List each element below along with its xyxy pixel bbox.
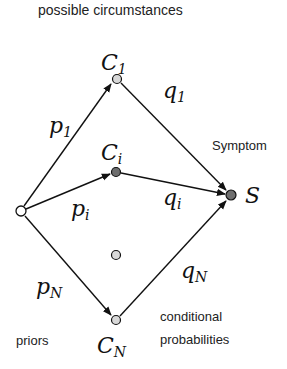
conditional-label-line2: probabilities	[160, 332, 230, 347]
source-node	[16, 206, 26, 216]
label-qi: qi	[163, 185, 182, 212]
edge-pi	[26, 174, 110, 209]
node-s	[226, 190, 236, 200]
title-label: possible circumstances	[38, 2, 183, 18]
edge-qn	[120, 201, 226, 316]
priors-label: priors	[16, 333, 49, 348]
label-p1: p1	[49, 113, 72, 140]
node-ci	[112, 168, 121, 177]
label-s: S	[245, 183, 260, 208]
label-q1: q1	[163, 78, 186, 105]
node-cn	[112, 316, 121, 325]
label-ci: Ci	[101, 140, 122, 167]
label-pn: pN	[36, 274, 63, 301]
label-pi: pi	[71, 196, 90, 223]
edge-p1	[24, 84, 111, 206]
bayes-diagram: possible circumstances C1 Ci CN S p1 pi …	[0, 0, 287, 369]
symptom-label: Symptom	[212, 138, 267, 153]
label-c1: C1	[101, 50, 127, 77]
conditional-label-line1: conditional	[160, 309, 222, 324]
diagram-canvas: possible circumstances C1 Ci CN S p1 pi …	[0, 0, 287, 369]
node-middle	[112, 251, 121, 260]
label-cn: CN	[97, 333, 127, 360]
label-qn: qN	[181, 258, 208, 285]
edge-pn	[25, 216, 111, 315]
